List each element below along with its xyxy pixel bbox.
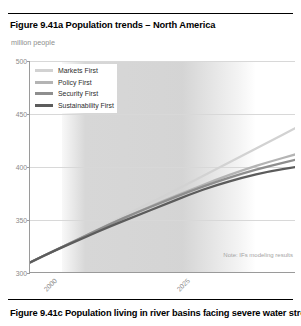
legend-item: Policy First xyxy=(35,77,114,89)
legend-item-label: Security First xyxy=(58,90,98,97)
y-axis-tick-label: 350 xyxy=(3,217,27,224)
y-axis-tick-label: 450 xyxy=(3,111,27,118)
y-axis-unit-label: million people xyxy=(11,38,55,47)
chart-note: Note: IFs modeling results xyxy=(223,252,293,258)
figure-title: Figure 9.41a Population trends – North A… xyxy=(10,20,295,31)
x-axis-tick-label: 2000 xyxy=(42,277,58,293)
legend-item: Security First xyxy=(35,88,114,100)
y-axis-tick-label: 400 xyxy=(3,164,27,171)
legend-color-swatch xyxy=(35,81,53,84)
y-axis: 300350400450500 xyxy=(0,61,27,273)
next-figure-caption: Figure 9.41c Population living in river … xyxy=(10,308,301,319)
y-axis-tick-mark xyxy=(27,273,30,274)
legend-item: Markets First xyxy=(35,65,114,77)
legend-item-label: Policy First xyxy=(58,79,92,86)
series-line xyxy=(30,167,295,262)
legend-color-swatch xyxy=(35,92,53,95)
legend-item-label: Sustainability First xyxy=(58,102,114,109)
legend: Markets FirstPolicy FirstSecurity FirstS… xyxy=(34,64,117,113)
bottom-divider xyxy=(8,299,293,300)
top-divider xyxy=(8,13,293,14)
legend-color-swatch xyxy=(35,104,53,107)
y-axis-tick-label: 500 xyxy=(3,58,27,65)
legend-color-swatch xyxy=(35,69,53,72)
y-axis-tick-label: 300 xyxy=(3,270,27,277)
legend-item-label: Markets First xyxy=(58,67,98,74)
x-axis-tick-label: 2025 xyxy=(175,277,191,293)
figure-panel: Figure 9.41a Population trends – North A… xyxy=(0,0,301,326)
legend-item: Sustainability First xyxy=(35,100,114,112)
